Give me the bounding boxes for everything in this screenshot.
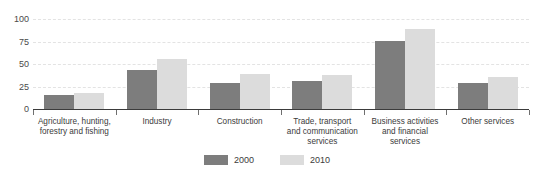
light-gray-swatch (280, 155, 304, 165)
bar-2000 (458, 83, 488, 109)
y-axis-tick-label: 25 (0, 82, 29, 92)
plot-area (33, 19, 529, 109)
bar-2010 (157, 59, 187, 109)
x-axis-category-label: Business activities and financial servic… (364, 117, 447, 148)
legend-item-2000[interactable]: 2000 (204, 155, 254, 165)
y-axis-tick-label: 75 (0, 37, 29, 47)
bar-2010 (240, 74, 270, 109)
bar-2000 (292, 81, 322, 109)
dark-gray-swatch (204, 155, 228, 165)
legend-label: 2000 (234, 155, 254, 165)
bar-2010 (322, 75, 352, 109)
x-axis-tick (446, 110, 447, 115)
x-axis-category-label: Agriculture, hunting, forestry and fishi… (33, 117, 116, 137)
truncated-caption (30, 0, 230, 3)
bar-group (446, 19, 529, 109)
legend-label: 2010 (310, 155, 330, 165)
bar-2010 (405, 29, 435, 109)
x-axis-tick (33, 110, 34, 115)
x-axis-tick (198, 110, 199, 115)
y-axis-tick-label: 0 (0, 104, 29, 114)
bar-2000 (210, 83, 240, 109)
bar-chart: 0255075100 20002010 Agriculture, hunting… (0, 0, 534, 177)
x-axis-tick (529, 110, 530, 115)
bar-2010 (74, 93, 104, 109)
bar-2000 (127, 70, 157, 109)
bar-group (33, 19, 116, 109)
bar-group (198, 19, 281, 109)
legend-item-2010[interactable]: 2010 (280, 155, 330, 165)
y-axis-tick-label: 50 (0, 59, 29, 69)
bar-2010 (488, 77, 518, 109)
x-axis-category-label: Industry (116, 117, 199, 127)
bar-group (281, 19, 364, 109)
x-axis-category-label: Other services (446, 117, 529, 127)
x-axis-tick (281, 110, 282, 115)
chart-legend: 20002010 (0, 155, 534, 165)
y-axis-tick-label: 100 (0, 14, 29, 24)
x-axis-tick (364, 110, 365, 115)
x-axis-tick (116, 110, 117, 115)
bar-2000 (44, 95, 74, 109)
x-axis-category-label: Construction (198, 117, 281, 127)
y-axis: 0255075100 (0, 0, 29, 177)
bar-2000 (375, 41, 405, 109)
bar-group (116, 19, 199, 109)
bar-group (364, 19, 447, 109)
x-axis-category-label: Trade, transport and communication servi… (281, 117, 364, 148)
